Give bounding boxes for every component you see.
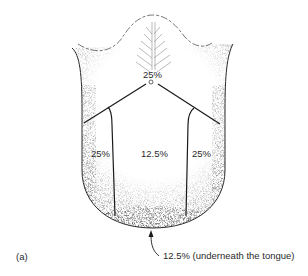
region-label-posterior: 25% (143, 69, 162, 80)
region-label-left-lateral: 25% (91, 148, 110, 159)
tongue-diagram (0, 0, 308, 276)
region-label-right-lateral: 25% (192, 148, 211, 159)
region-label-central-dorsum: 12.5% (141, 148, 168, 159)
panel-label: (a) (16, 251, 28, 262)
underside-callout-arrow (149, 230, 160, 256)
underside-callout-label: 12.5% (underneath the tongue) (163, 250, 295, 261)
